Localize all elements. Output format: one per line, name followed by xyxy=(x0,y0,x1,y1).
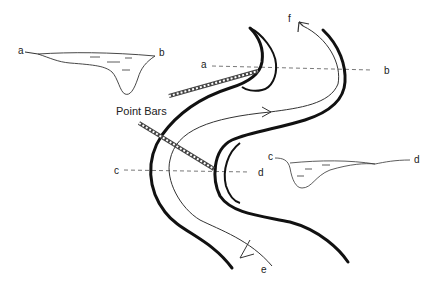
lower-point-bar xyxy=(225,143,240,203)
section-line-cd xyxy=(124,170,250,172)
label-line-ab-b: b xyxy=(384,66,390,76)
label-line-cd-c: c xyxy=(114,166,119,176)
label-flow-e: e xyxy=(261,265,267,275)
cross-section-cd xyxy=(275,158,410,188)
label-point-bars: Point Bars xyxy=(116,106,167,117)
label-xs-ab-a: a xyxy=(18,46,24,56)
river-diagram xyxy=(0,0,433,283)
flow-arrow-top xyxy=(298,22,309,32)
label-line-ab-a: a xyxy=(201,60,207,70)
section-line-ab xyxy=(212,66,372,70)
right-bank xyxy=(215,30,348,262)
label-line-cd-d: d xyxy=(258,168,264,178)
label-xs-cd-c: c xyxy=(268,152,273,162)
cross-section-ab xyxy=(25,52,155,94)
flow-arrow-upstream xyxy=(240,240,254,258)
label-xs-ab-b: b xyxy=(159,48,165,58)
label-xs-cd-d: d xyxy=(414,155,420,165)
label-flow-f: f xyxy=(288,14,291,24)
